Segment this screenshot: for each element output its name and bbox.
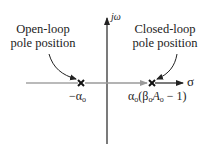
closed-loop-pole-marker-icon <box>149 80 155 86</box>
real-axis-label: σ <box>187 75 194 88</box>
open-loop-pole-value: −αo <box>69 90 86 106</box>
closed-loop-label: Closed-loop pole position <box>126 22 204 50</box>
open-loop-label: Open-loop pole position <box>4 22 82 50</box>
open-loop-pointer-arrow <box>49 54 76 79</box>
closed-loop-pointer-arrow <box>157 54 177 79</box>
imaginary-axis-label: jω <box>111 10 121 23</box>
closed-loop-pole-value: αo(βoAo − 1) <box>128 90 187 106</box>
open-loop-pole-marker-icon <box>78 80 84 86</box>
